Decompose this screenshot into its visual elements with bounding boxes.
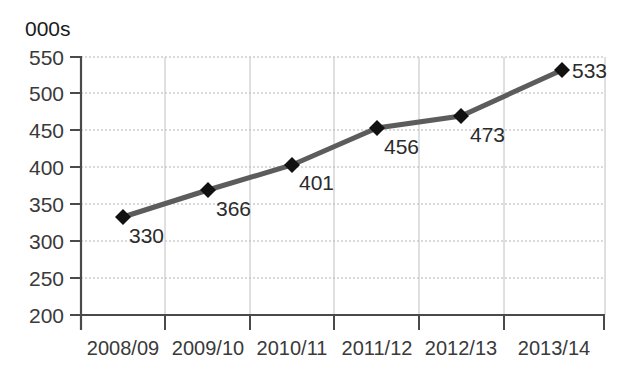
ytick-label-450: 450 xyxy=(29,119,64,142)
vertical-gridlines xyxy=(165,57,605,315)
xtick-label-2009-10: 2009/10 xyxy=(172,337,244,359)
data-labels: 330 366 401 456 473 533 xyxy=(129,59,607,247)
data-label-2008-09: 330 xyxy=(129,224,164,247)
y-axis-labels: 550 500 450 400 350 300 250 200 xyxy=(29,46,64,327)
marker-2011-12[interactable] xyxy=(369,120,385,136)
ytick-label-350: 350 xyxy=(29,193,64,216)
x-axis-ticks xyxy=(81,315,604,330)
data-label-2009-10: 366 xyxy=(216,197,251,220)
xtick-label-2012-13: 2012/13 xyxy=(425,337,497,359)
data-label-2010-11: 401 xyxy=(299,171,334,194)
chart-canvas: 000s xyxy=(0,0,629,369)
xtick-label-2011-12: 2011/12 xyxy=(342,337,413,359)
marker-2012-13[interactable] xyxy=(453,108,469,124)
line-chart: 000s xyxy=(0,0,629,369)
x-axis-labels: 2008/09 2009/10 2010/11 2011/12 2012/13 … xyxy=(87,337,590,359)
ytick-label-550: 550 xyxy=(29,46,64,69)
data-label-2013-14: 533 xyxy=(572,59,607,82)
marker-2010-11[interactable] xyxy=(284,157,300,173)
marker-2013-14[interactable] xyxy=(554,62,570,78)
data-label-2011-12: 456 xyxy=(384,135,419,158)
ytick-label-250: 250 xyxy=(29,267,64,290)
marker-2008-09[interactable] xyxy=(115,209,131,225)
xtick-label-2010-11: 2010/11 xyxy=(257,337,328,359)
y-axis-ticks xyxy=(70,57,81,315)
ytick-label-300: 300 xyxy=(29,230,64,253)
xtick-label-2013-14: 2013/14 xyxy=(518,337,590,359)
xtick-label-2008-09: 2008/09 xyxy=(87,337,159,359)
marker-2009-10[interactable] xyxy=(200,182,216,198)
axis-unit-label: 000s xyxy=(25,17,71,40)
ytick-label-400: 400 xyxy=(29,156,64,179)
ytick-label-200: 200 xyxy=(29,304,64,327)
data-label-2012-13: 473 xyxy=(470,123,505,146)
ytick-label-500: 500 xyxy=(29,82,64,105)
